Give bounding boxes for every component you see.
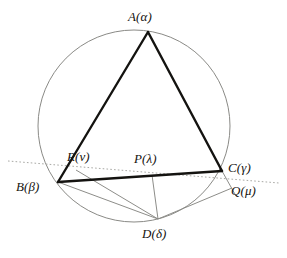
label-point-a: A(α) xyxy=(128,10,152,23)
segment-p-to-d xyxy=(152,175,158,219)
label-point-d: D(δ) xyxy=(142,227,167,240)
figure-canvas xyxy=(0,0,287,258)
label-point-b: B(β) xyxy=(16,180,39,193)
geometry-figure: A(α) B(β) C(γ) D(δ) P(λ) Q(μ) R(ν) xyxy=(0,0,287,258)
label-point-q: Q(μ) xyxy=(231,184,256,197)
circumscribed-circle xyxy=(38,30,230,222)
segment-d-to-q xyxy=(158,188,232,219)
label-point-p: P(λ) xyxy=(134,152,157,165)
label-point-c: C(γ) xyxy=(228,161,251,174)
label-point-r: R(ν) xyxy=(67,150,90,163)
triangle-side-ac xyxy=(148,32,222,171)
